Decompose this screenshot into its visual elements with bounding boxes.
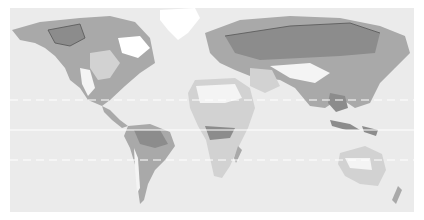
australia — [338, 146, 386, 186]
map-canvas — [10, 8, 414, 212]
greenland — [160, 8, 200, 40]
africa — [188, 78, 255, 178]
new-zealand — [392, 186, 402, 204]
southeast-asia-islands — [330, 120, 378, 136]
south-america — [124, 124, 175, 204]
world-map — [10, 8, 414, 212]
north-america — [12, 16, 155, 128]
